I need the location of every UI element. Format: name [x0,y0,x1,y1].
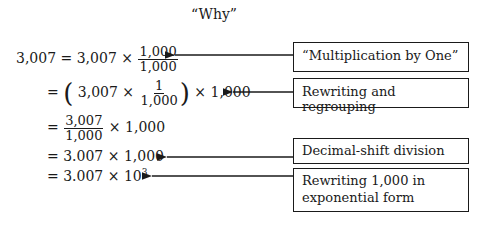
annotation-3-label: Decimal-shift division [302,143,445,158]
annotation-1-label: “Multiplication by One” [302,48,458,63]
annotation-box-2: Rewriting and regrouping [293,78,469,108]
annotation-box-3: Decimal-shift division [293,138,469,164]
annotation-4-label: Rewriting 1,000 in exponential form [302,173,425,205]
annotation-box-1: “Multiplication by One” [293,42,469,72]
annotation-box-4: Rewriting 1,000 in exponential form [293,168,469,212]
